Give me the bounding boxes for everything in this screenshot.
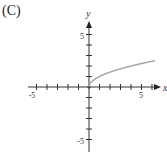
- x-tick-label-neg5: -5: [29, 91, 36, 100]
- y-label: y: [85, 8, 91, 19]
- x-tick-label-5: 5: [139, 91, 143, 100]
- x-label: x: [162, 82, 167, 93]
- y-arrow-icon: [86, 21, 92, 28]
- y-tick-label-5: 5: [80, 32, 84, 41]
- plot: x y -5 5 5 -5: [0, 0, 167, 161]
- function-curve: [89, 61, 155, 87]
- y-tick-label-neg5: -5: [77, 137, 84, 146]
- x-arrow-icon: [154, 84, 161, 90]
